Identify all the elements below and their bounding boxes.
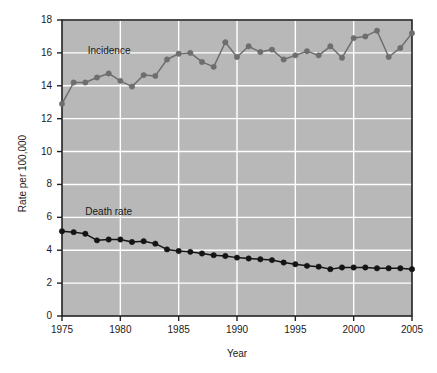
- data-point: [281, 57, 286, 62]
- chart-figure: Rate per 100,000 Year 024681012141618197…: [0, 0, 437, 373]
- data-point: [71, 80, 76, 85]
- data-point: [409, 30, 414, 35]
- x-tick-label: 1995: [275, 324, 315, 335]
- data-point: [351, 265, 356, 270]
- data-point: [83, 80, 88, 85]
- y-tick-label: 2: [28, 277, 52, 288]
- data-point: [106, 71, 111, 76]
- data-point: [83, 231, 88, 236]
- data-point: [374, 28, 379, 33]
- data-point: [164, 247, 169, 252]
- y-tick-label: 8: [28, 178, 52, 189]
- y-tick-label: 10: [28, 146, 52, 157]
- data-point: [316, 53, 321, 58]
- y-tick-label: 18: [28, 14, 52, 25]
- data-point: [269, 47, 274, 52]
- plot-canvas: [0, 0, 437, 373]
- data-point: [363, 34, 368, 39]
- data-point: [246, 256, 251, 261]
- data-point: [234, 255, 239, 260]
- data-point: [304, 263, 309, 268]
- data-point: [223, 40, 228, 45]
- data-point: [234, 54, 239, 59]
- data-point: [339, 265, 344, 270]
- series-annotation-incidence: Incidence: [88, 45, 131, 56]
- data-point: [398, 266, 403, 271]
- data-point: [129, 84, 134, 89]
- data-point: [59, 101, 64, 106]
- data-point: [363, 265, 368, 270]
- data-point: [211, 64, 216, 69]
- data-point: [258, 257, 263, 262]
- data-point: [188, 50, 193, 55]
- data-point: [94, 75, 99, 80]
- data-point: [129, 239, 134, 244]
- x-tick-label: 1975: [42, 324, 82, 335]
- y-tick-label: 16: [28, 47, 52, 58]
- data-point: [304, 49, 309, 54]
- data-point: [258, 49, 263, 54]
- data-point: [398, 45, 403, 50]
- y-tick-label: 14: [28, 80, 52, 91]
- data-point: [176, 248, 181, 253]
- data-point: [94, 238, 99, 243]
- y-tick-label: 0: [28, 310, 52, 321]
- x-tick-label: 1990: [217, 324, 257, 335]
- data-point: [316, 264, 321, 269]
- data-point: [293, 53, 298, 58]
- x-tick-label: 2000: [334, 324, 374, 335]
- data-point: [328, 44, 333, 49]
- data-point: [164, 57, 169, 62]
- data-point: [141, 72, 146, 77]
- data-point: [141, 238, 146, 243]
- data-point: [374, 266, 379, 271]
- y-tick-label: 12: [28, 113, 52, 124]
- data-point: [351, 35, 356, 40]
- data-point: [59, 229, 64, 234]
- y-tick-label: 4: [28, 244, 52, 255]
- x-axis-label: Year: [62, 348, 412, 359]
- data-point: [199, 251, 204, 256]
- data-point: [188, 249, 193, 254]
- y-axis-label: Rate per 100,000: [17, 114, 28, 234]
- x-tick-label: 1985: [159, 324, 199, 335]
- data-point: [269, 257, 274, 262]
- x-tick-label: 1980: [100, 324, 140, 335]
- data-point: [211, 252, 216, 257]
- data-point: [71, 229, 76, 234]
- data-point: [339, 55, 344, 60]
- data-point: [293, 262, 298, 267]
- data-point: [328, 266, 333, 271]
- data-point: [118, 78, 123, 83]
- data-point: [386, 54, 391, 59]
- data-point: [246, 44, 251, 49]
- data-point: [386, 266, 391, 271]
- data-point: [118, 237, 123, 242]
- x-tick-label: 2005: [392, 324, 432, 335]
- data-point: [199, 59, 204, 64]
- data-point: [176, 51, 181, 56]
- y-tick-label: 6: [28, 211, 52, 222]
- data-point: [281, 260, 286, 265]
- data-point: [153, 73, 158, 78]
- data-point: [409, 266, 414, 271]
- data-point: [106, 237, 111, 242]
- data-point: [223, 253, 228, 258]
- series-annotation-death-rate: Death rate: [85, 206, 132, 217]
- data-point: [153, 241, 158, 246]
